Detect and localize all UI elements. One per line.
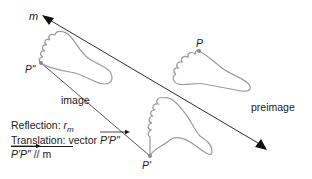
point-p-prime	[148, 154, 152, 158]
point-p	[197, 49, 201, 53]
preimage-label: preimage	[251, 102, 295, 113]
parallel-vector-text: P'P"	[11, 148, 31, 160]
preimage-foot	[173, 50, 250, 91]
glide-reflection-diagram: m P P" P' image preimage Reflection: rm …	[0, 0, 312, 179]
translation-vector: P'P"	[100, 135, 120, 146]
parallel-suffix: // m	[31, 148, 51, 160]
point-p-double-prime	[39, 61, 43, 65]
reflection-prefix: Reflection:	[11, 119, 64, 131]
image-label: image	[61, 95, 90, 106]
image-foot	[39, 31, 112, 84]
point-label-p-prime: P'	[142, 160, 151, 171]
translated-foot	[148, 98, 212, 156]
reflection-subscript: m	[67, 125, 74, 134]
line-label-m: m	[29, 11, 38, 22]
arrowhead-up-icon	[42, 15, 54, 25]
vector-arrow-icon	[100, 129, 130, 135]
parallel-vector: P'P"	[11, 149, 31, 160]
arrowhead-down-icon	[255, 139, 267, 150]
legend-parallel: P'P" // m	[11, 149, 51, 160]
point-label-p-double-prime: P"	[25, 65, 35, 75]
line-m	[42, 15, 267, 150]
translation-vector-text: P'P"	[100, 134, 120, 146]
point-label-p: P	[196, 38, 203, 49]
legend-reflection: Reflection: rm	[11, 120, 74, 134]
vector-arrow-icon	[11, 143, 41, 149]
